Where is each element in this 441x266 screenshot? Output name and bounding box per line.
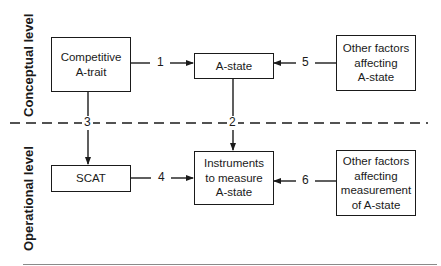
node-text-line: Other factors xyxy=(343,41,409,56)
node-text-line: A-state xyxy=(216,185,252,200)
link-label-3: 3 xyxy=(82,116,93,129)
node-text-line: A-state xyxy=(358,70,394,85)
node-text-line: of A-state xyxy=(352,198,401,213)
node-text-line: Instruments xyxy=(204,156,264,171)
node-text-line: Other factors xyxy=(343,154,409,169)
node-text-line: to measure xyxy=(205,171,263,186)
other-factors-a-state-node: Other factors affecting A-state xyxy=(336,35,416,91)
a-state-node: A-state xyxy=(194,53,274,79)
node-text-line: Competitive xyxy=(61,50,122,65)
other-factors-measurement-node: Other factors affecting measurement of A… xyxy=(336,150,416,216)
operational-level-label: Operational level xyxy=(21,133,37,251)
node-text-line: A-trait xyxy=(76,65,107,80)
conceptual-level-label: Conceptual level xyxy=(21,5,37,117)
link-label-1: 1 xyxy=(155,56,166,69)
instruments-node: Instruments to measure A-state xyxy=(194,151,274,205)
node-text-line: A-state xyxy=(216,59,252,74)
node-text-line: affecting xyxy=(354,169,397,184)
link-label-2: 2 xyxy=(227,116,238,129)
competitive-a-trait-node: Competitive A-trait xyxy=(51,37,131,92)
link-label-6: 6 xyxy=(300,174,311,187)
link-label-4: 4 xyxy=(156,171,167,184)
node-text-line: affecting xyxy=(354,56,397,71)
node-text-line: SCAT xyxy=(76,171,106,186)
scat-node: SCAT xyxy=(51,165,131,192)
node-text-line: measurement xyxy=(341,183,411,198)
link-label-5: 5 xyxy=(300,56,311,69)
